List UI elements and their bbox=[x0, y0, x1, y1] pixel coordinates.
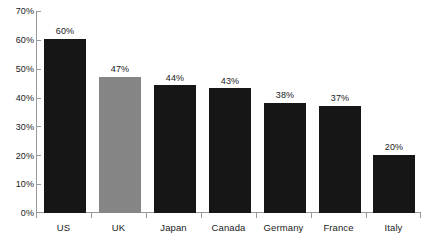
bar-france[interactable] bbox=[319, 106, 361, 213]
y-axis-label-group: 0% bbox=[0, 209, 34, 218]
y-axis-label-group: 30% bbox=[0, 123, 34, 132]
bar-value-uk: 47% bbox=[99, 65, 141, 74]
bar-value-italy: 20% bbox=[373, 143, 415, 152]
y-axis-tick-label: 10% bbox=[0, 180, 34, 189]
x-axis-category-germany: Germany bbox=[256, 222, 311, 233]
x-axis-category-japan: Japan bbox=[146, 222, 201, 233]
bar-italy[interactable] bbox=[373, 155, 415, 213]
y-axis-tick-label: 50% bbox=[0, 65, 34, 74]
x-axis-tick bbox=[201, 213, 202, 218]
y-axis-tick-label: 20% bbox=[0, 152, 34, 161]
y-axis-label-group: 70% bbox=[0, 7, 34, 16]
x-axis-tick bbox=[91, 213, 92, 218]
x-axis-tick bbox=[420, 213, 421, 218]
bar-canada[interactable] bbox=[209, 88, 251, 213]
bar-value-japan: 44% bbox=[154, 74, 196, 83]
x-axis-category-france: France bbox=[311, 222, 366, 233]
x-axis-category-italy: Italy bbox=[366, 222, 421, 233]
x-axis-tick bbox=[366, 213, 367, 218]
plot-area bbox=[36, 10, 421, 213]
y-axis-label-group: 60% bbox=[0, 36, 34, 45]
y-axis-tick-label: 60% bbox=[0, 36, 34, 45]
y-axis-tick-label: 70% bbox=[0, 7, 34, 16]
y-axis-label-group: 50% bbox=[0, 65, 34, 74]
bar-uk[interactable] bbox=[99, 77, 141, 213]
x-axis-tick bbox=[146, 213, 147, 218]
x-axis-category-canada: Canada bbox=[201, 222, 256, 233]
x-axis-tick bbox=[311, 213, 312, 218]
bar-value-germany: 38% bbox=[264, 91, 306, 100]
bar-us[interactable] bbox=[44, 39, 86, 213]
y-axis-label-group: 40% bbox=[0, 94, 34, 103]
bar-germany[interactable] bbox=[264, 103, 306, 213]
y-axis-label-group: 10% bbox=[0, 180, 34, 189]
bar-chart: 70% 60% 50% 40% 30% 20% 10% 0% bbox=[0, 0, 437, 242]
x-axis-tick bbox=[256, 213, 257, 218]
y-axis-tick-label: 30% bbox=[0, 123, 34, 132]
x-axis-category-uk: UK bbox=[91, 222, 146, 233]
bar-value-us: 60% bbox=[44, 27, 86, 36]
x-axis-tick bbox=[36, 213, 37, 218]
bar-value-canada: 43% bbox=[209, 77, 251, 86]
y-axis-tick-label: 40% bbox=[0, 94, 34, 103]
x-axis-category-us: US bbox=[36, 222, 91, 233]
y-axis-tick-label: 0% bbox=[0, 209, 34, 218]
y-axis-label-group: 20% bbox=[0, 152, 34, 161]
bar-value-france: 37% bbox=[319, 94, 361, 103]
bar-japan[interactable] bbox=[154, 85, 196, 213]
